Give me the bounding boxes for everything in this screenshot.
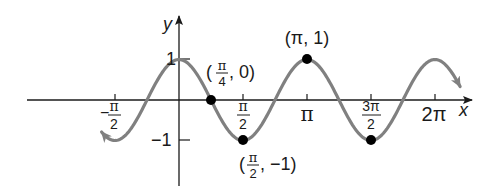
point-label-pi4-0: ( π 4 , 0) — [206, 58, 255, 89]
svg-text:2: 2 — [367, 116, 375, 132]
x-tick-label-pi: π — [300, 102, 313, 126]
svg-text:π: π — [238, 98, 247, 114]
point-label-pi2-neg1: ( π 2 , −1) — [239, 150, 297, 181]
point-pi4-0 — [206, 95, 216, 105]
y-tick-label-neg1: −1 — [151, 130, 172, 150]
svg-text:π: π — [109, 98, 118, 114]
svg-text:π: π — [249, 150, 258, 165]
point-label-pi-1: (π, 1) — [285, 28, 329, 48]
chart-container: y x 1 −1 − π 2 π 2 π 3π 2 2π ( π 4 , 0) … — [0, 0, 496, 190]
svg-text:2: 2 — [249, 166, 256, 181]
svg-text:3π: 3π — [362, 98, 380, 114]
point-pi-1 — [302, 54, 312, 64]
y-tick-label-1: 1 — [166, 49, 176, 69]
svg-text:(: ( — [239, 154, 245, 174]
point-3pi2-neg1 — [366, 135, 376, 145]
svg-text:, −1): , −1) — [260, 154, 297, 174]
x-axis-label: x — [458, 100, 469, 120]
svg-text:, 0): , 0) — [229, 62, 255, 82]
svg-text:2: 2 — [239, 116, 247, 132]
x-tick-label-3pi-2: 3π 2 — [362, 98, 381, 132]
point-pi2-neg1 — [238, 135, 248, 145]
svg-text:π: π — [218, 58, 227, 73]
svg-text:−: − — [100, 104, 109, 121]
x-tick-label-neg-pi-2: − π 2 — [100, 98, 121, 132]
svg-text:(: ( — [206, 62, 212, 82]
x-tick-label-2pi: 2π — [422, 103, 447, 125]
cosine-chart: y x 1 −1 − π 2 π 2 π 3π 2 2π ( π 4 , 0) … — [0, 0, 496, 190]
svg-text:2: 2 — [110, 116, 118, 132]
svg-text:4: 4 — [218, 74, 225, 89]
y-axis-label: y — [161, 14, 173, 34]
x-tick-label-pi-2: π 2 — [237, 98, 250, 132]
